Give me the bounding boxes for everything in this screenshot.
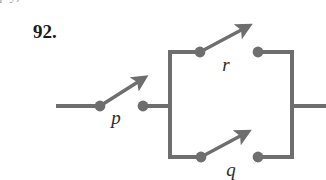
switch-q[interactable]: q (196, 134, 264, 180)
switch-p[interactable]: p (95, 80, 149, 128)
switch-r-lever (200, 28, 245, 52)
switch-q-right-node (253, 152, 264, 163)
page-canvas: p y, 92. p (0, 0, 326, 180)
switch-q-left-node (196, 152, 207, 163)
switching-circuit-diagram: p r q (0, 0, 326, 180)
switch-p-left-node (95, 101, 106, 112)
switch-r-label: r (222, 54, 230, 75)
switch-p-lever (100, 80, 141, 106)
switch-r-right-node (253, 47, 264, 58)
switch-q-label: q (226, 159, 236, 180)
switch-q-lever (201, 134, 244, 157)
switch-p-label: p (109, 107, 121, 128)
switch-p-right-node (138, 101, 149, 112)
switch-r[interactable]: r (195, 28, 264, 75)
switch-r-left-node (195, 47, 206, 58)
